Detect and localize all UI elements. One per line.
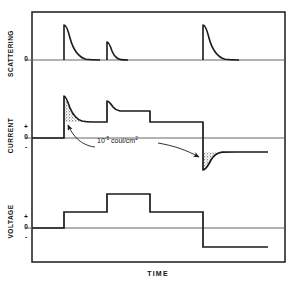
- tick-scattering-zero: 0: [22, 56, 30, 63]
- tick-current-zero: 0: [22, 134, 30, 141]
- voltage-trace: [32, 194, 268, 247]
- charge-mantissa: 10: [97, 137, 105, 144]
- current-shaded-area-1: [64, 96, 93, 122]
- tick-current-minus: -: [22, 144, 30, 151]
- tick-voltage-plus: +: [22, 214, 30, 221]
- charge-annotation: 10-5coul/cm2: [97, 136, 138, 144]
- figure-container: SCATTERING 0 CURRENT + 0 - VOLTAGE + 0 -…: [0, 0, 297, 290]
- scattering-pulse-1: [64, 25, 100, 60]
- charge-units: coul/cm: [109, 137, 135, 144]
- axis-label-voltage: VOLTAGE: [7, 200, 14, 244]
- scattering-pulse-3: [203, 25, 239, 60]
- tick-current-plus: +: [22, 124, 30, 131]
- plot-frame: [32, 12, 285, 262]
- axis-label-time: TIME: [118, 270, 198, 277]
- axis-label-scattering: SCATTERING: [7, 23, 14, 85]
- annotation-arrow-left: [68, 125, 95, 147]
- tick-voltage-minus: -: [22, 234, 30, 241]
- annotation-arrow-right: [158, 143, 199, 157]
- tick-voltage-zero: 0: [22, 224, 30, 231]
- axis-label-current: CURRENT: [7, 114, 14, 158]
- figure-svg: [0, 0, 297, 290]
- charge-units-exponent: 2: [135, 136, 138, 141]
- scattering-pulse-2: [107, 42, 128, 60]
